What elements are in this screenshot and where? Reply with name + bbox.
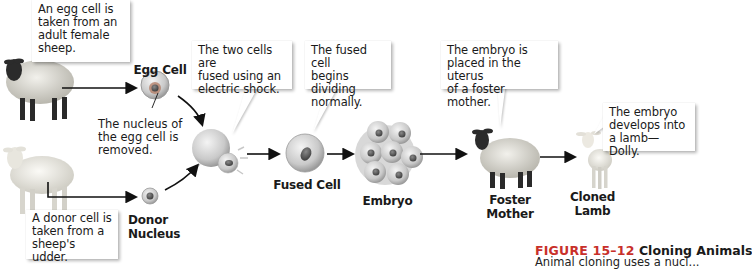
label-cloned-lamb: Cloned Lamb [565, 190, 620, 218]
adult-female-sheep-icon [4, 59, 74, 122]
label-donor-nucleus: Donor Nucleus [128, 213, 178, 241]
fused-cell-icon [286, 134, 324, 172]
callout-donor-source: A donor cell is taken from a sheep's udd… [26, 210, 118, 259]
label-egg-cell: Egg Cell [130, 63, 190, 77]
label-embryo: Embryo [360, 194, 415, 208]
embryo-icon [355, 121, 423, 185]
callout-develops: The embryo develops into a lamb—Dolly. [603, 103, 695, 151]
arrow-nucleus-to-fusion [165, 166, 197, 190]
fusing-cells-icon [192, 129, 248, 174]
label-foster-mother: Foster Mother [480, 193, 540, 221]
figure-caption-body: Animal cloning uses a nucl... [535, 255, 700, 269]
label-fused-cell: Fused Cell [272, 178, 342, 192]
callout-nucleus-removed: The nucleus of the egg cell is removed. [98, 118, 182, 157]
donor-sheep-icon [3, 147, 74, 216]
callout-egg-source: An egg cell is taken from an adult femal… [32, 0, 130, 62]
callout-dividing: The fused cell begins dividing normally. [305, 41, 391, 89]
callout-fusion: The two cells are fused using an electri… [192, 41, 292, 89]
donor-nucleus-icon [142, 188, 158, 204]
callout-implant: The embryo is placed in the uterus of a … [441, 41, 558, 89]
foster-mother-sheep-icon [472, 129, 540, 190]
